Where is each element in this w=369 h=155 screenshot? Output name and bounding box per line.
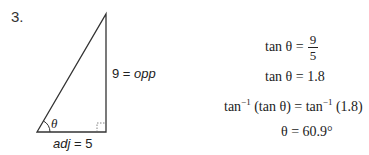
opposite-side-label: 9 = opp [112,66,156,81]
adjacent-side-label: adj = 5 [53,136,92,151]
equation-3: tan−1 (tan θ) = tan−1 (1.8) [224,97,363,115]
right-angle-marker [97,123,106,132]
equation-1: tan θ =95 [265,32,318,63]
equation-4: θ = 60.9° [281,124,333,140]
equation-2: tan θ = 1.8 [265,69,325,85]
angle-arc [44,121,51,132]
angle-theta-label: θ [51,116,57,132]
